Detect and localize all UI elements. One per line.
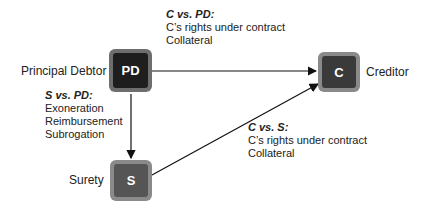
- principal-debtor-node: PD: [109, 49, 152, 92]
- c-vs-pd-heading: C vs. PD:: [166, 8, 285, 21]
- pd-abbr: PD: [121, 63, 139, 78]
- c-vs-pd-line: C’s rights under contract: [166, 21, 285, 34]
- s-vs-pd-line: Subrogation: [45, 128, 123, 141]
- c-vs-s-heading: C vs. S:: [248, 121, 367, 134]
- c-vs-pd-line: Collateral: [166, 34, 285, 47]
- c-vs-pd-annotation: C vs. PD: C’s rights under contract Coll…: [166, 8, 285, 47]
- principal-debtor-label: Principal Debtor: [21, 65, 106, 78]
- c-vs-s-line: C’s rights under contract: [248, 134, 367, 147]
- c-vs-s-line: Collateral: [248, 147, 367, 160]
- surety-node: S: [110, 160, 152, 201]
- s-vs-pd-annotation: S vs. PD: Exoneration Reimbursement Subr…: [45, 89, 123, 141]
- creditor-label: Creditor: [366, 66, 409, 79]
- surety-label: Surety: [69, 174, 104, 187]
- s-vs-pd-line: Reimbursement: [45, 115, 123, 128]
- s-vs-pd-line: Exoneration: [45, 102, 123, 115]
- s-abbr: S: [127, 173, 136, 188]
- c-abbr: C: [334, 65, 343, 80]
- c-vs-s-annotation: C vs. S: C’s rights under contract Colla…: [248, 121, 367, 160]
- creditor-node: C: [318, 52, 360, 92]
- s-vs-pd-heading: S vs. PD:: [45, 89, 123, 102]
